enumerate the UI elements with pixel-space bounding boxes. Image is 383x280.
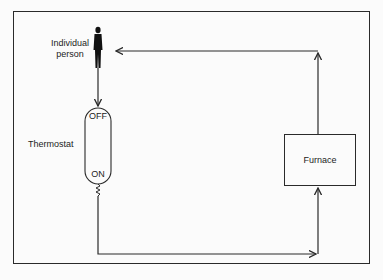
thermostat-on-label: ON [85,169,111,179]
person-label-line2: person [44,49,96,60]
thermostat-coil-icon [96,184,100,196]
furnace-box: Furnace [284,134,356,186]
thermostat-off-label: OFF [85,111,111,121]
person-label-line1: Individual [44,38,96,49]
thermostat-label: Thermostat [28,139,74,150]
furnace-label: Furnace [303,155,336,165]
person-label: Individual person [44,38,96,60]
arrow-thermostat-to-furnace-a [98,196,316,254]
